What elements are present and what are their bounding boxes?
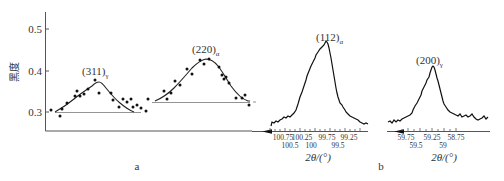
y-tick-label: 0.4: [28, 65, 42, 77]
peak-label-112: (112)α: [316, 31, 343, 46]
x-tick-label: 58.75: [448, 133, 465, 142]
peak-label-200: (200)γ: [416, 54, 443, 69]
arrow-left-icon: [262, 129, 272, 134]
y-tick-label: 0.5: [28, 23, 42, 35]
fit-curve-311: [55, 82, 134, 112]
fit-curve-220: [155, 59, 250, 101]
data-points-220: [147, 58, 251, 107]
panel-caption-a: a: [135, 160, 140, 172]
x-tick-label: 100: [305, 141, 317, 150]
panel-a: 0.5 0.4 0.3 黑度: [8, 12, 252, 172]
x-tick-label: 100.5: [282, 141, 299, 150]
x-tick-label: 59.5: [409, 141, 422, 150]
figure: 0.5 0.4 0.3 黑度: [0, 0, 504, 181]
x-tick-label: 59.25: [424, 133, 441, 142]
peak-label-220: (220)α: [192, 43, 220, 58]
panel-b: 100.75 100.25 99.75 99.25 100.5 100 99.5…: [252, 31, 490, 172]
profile-112: [271, 41, 368, 126]
x-axis-label-right: 2θ/(°): [431, 151, 457, 164]
panel-caption-b: b: [378, 160, 384, 172]
x-ticks-right: [402, 128, 456, 131]
x-tick-label: 99.5: [331, 141, 344, 150]
y-tick-label: 0.3: [28, 106, 42, 118]
x-ticks-left: [270, 128, 360, 131]
peak-label-311: (311)γ: [82, 65, 109, 80]
y-axis-label: 黑度: [8, 62, 20, 82]
x-axis-label-left: 2θ/(°): [305, 151, 331, 164]
x-tick-label: 59: [439, 141, 447, 150]
profile-200: [388, 66, 488, 123]
